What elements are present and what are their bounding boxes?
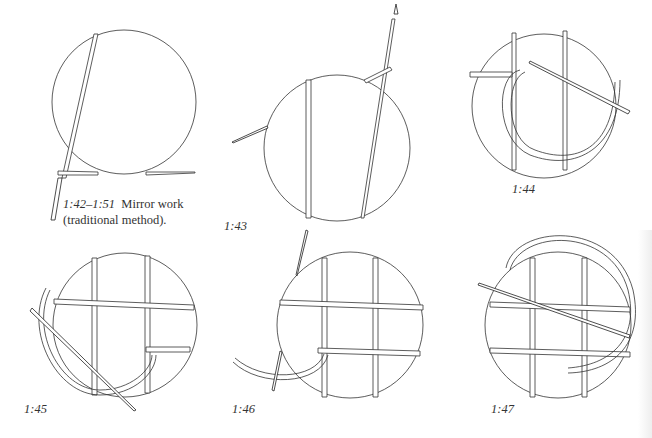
figure-1-42-mirror-first-thread: [51, 30, 196, 220]
figure-label-1-43: 1:43: [224, 219, 247, 234]
caption-line-2: (traditional method).: [63, 212, 183, 228]
thread-over-top: [364, 67, 392, 83]
mirror-circle: [53, 253, 197, 397]
figure-label-1-45: 1:45: [24, 402, 47, 417]
figure-1-43-second-thread: [232, 4, 410, 221]
mirror-circle: [277, 252, 423, 398]
mirror-circle: [52, 30, 196, 174]
figure-label-1-46: 1:46: [232, 402, 255, 417]
figure-1-47-weaving-third: [478, 236, 635, 398]
thread-under-right: [146, 172, 195, 175]
thread-under-left: [58, 171, 98, 175]
book-page: 1:42–1:51 Mirror work (traditional metho…: [0, 0, 652, 438]
caption-line-1: 1:42–1:51 Mirror work: [63, 196, 183, 212]
needle-top: [296, 230, 308, 276]
thread-diagonal: [62, 34, 98, 178]
mirror-circle: [264, 75, 410, 221]
thread-vertical-right: [582, 258, 587, 397]
thread-vertical: [306, 80, 311, 218]
figure-label-1-47: 1:47: [491, 402, 514, 417]
needle-bottom: [272, 351, 282, 391]
mirror-circle: [485, 252, 631, 398]
thread-vertical-right: [145, 256, 150, 393]
thread-vertical-right: [563, 31, 567, 170]
thread-vertical-right: [373, 258, 378, 397]
needle: [51, 178, 62, 220]
figure-1-46-weaving-second: [233, 230, 423, 398]
figure-1-44-cross-threads: [470, 31, 630, 178]
figure-1-45-weaving: [30, 253, 197, 411]
thread-vertical-left: [530, 258, 535, 397]
thread-vertical-left: [512, 33, 516, 170]
needle: [30, 308, 136, 411]
working-thread: [502, 70, 620, 160]
thread-horizontal-bottom: [318, 348, 420, 356]
thread-horizontal: [470, 72, 512, 77]
needle-tip: [394, 4, 398, 14]
thread-horizontal-bottom: [146, 347, 190, 352]
mirror-circle: [472, 34, 616, 178]
thread-horizontal-top: [54, 299, 194, 310]
needle-left: [232, 126, 268, 143]
thread-vertical-left: [322, 258, 327, 397]
caption-figure-range: 1:42–1:51: [63, 197, 115, 211]
thread-horizontal-bottom: [490, 348, 630, 357]
thread-horizontal-top: [280, 300, 423, 310]
figure-caption: 1:42–1:51 Mirror work (traditional metho…: [63, 196, 183, 228]
figure-label-1-44: 1:44: [512, 182, 535, 197]
thread-diagonal: [361, 19, 395, 218]
caption-title: Mirror work: [121, 197, 183, 211]
